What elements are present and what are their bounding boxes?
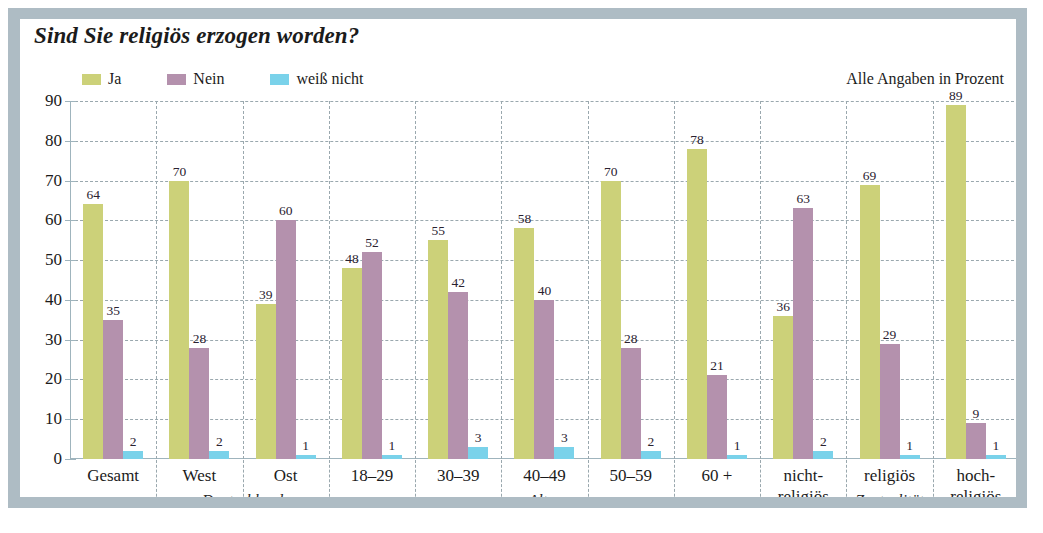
bar-ja[interactable]: 70: [601, 101, 621, 459]
bar-rect: [860, 185, 880, 459]
bar-rect: [900, 455, 920, 459]
y-axis-tick-label: 80: [26, 131, 62, 151]
legend-entry-nein[interactable]: Nein: [167, 70, 224, 88]
y-axis-tick-label: 70: [26, 171, 62, 191]
bar-ja[interactable]: 58: [514, 101, 534, 459]
bar-rect: [448, 292, 468, 459]
bar-weiß-nicht[interactable]: 3: [554, 101, 574, 459]
x-axis-category-label[interactable]: West: [156, 466, 242, 487]
bar-group-bars: 64352: [70, 101, 156, 459]
x-axis-category-label[interactable]: Ost: [243, 466, 329, 487]
bar-value-label: 35: [106, 303, 120, 319]
bar-group: 8991: [933, 101, 1016, 459]
bar-value-label: 21: [710, 358, 724, 374]
bar-nein[interactable]: 28: [189, 101, 209, 459]
bar-group: 48521: [329, 101, 415, 459]
x-axis-category-label[interactable]: 50–59: [588, 466, 674, 487]
bar-nein[interactable]: 29: [880, 101, 900, 459]
x-axis-category-label[interactable]: 40–49: [501, 466, 587, 487]
bar-ja[interactable]: 55: [428, 101, 448, 459]
bar-ja[interactable]: 36: [773, 101, 793, 459]
bar-group-bars: 36632: [760, 101, 846, 459]
bar-ja[interactable]: 48: [342, 101, 362, 459]
x-axis-category-label[interactable]: 18–29: [329, 466, 415, 487]
bar-weiß-nicht[interactable]: 1: [986, 101, 1006, 459]
bar-ja[interactable]: 39: [256, 101, 276, 459]
bar-value-label: 28: [624, 331, 638, 347]
bar-value-label: 89: [949, 88, 963, 104]
bar-value-label: 1: [906, 438, 913, 454]
x-axis-tick-label: 30–39: [437, 466, 480, 485]
legend-entry-weiß-nicht[interactable]: weiß nicht: [270, 70, 363, 88]
bar-ja[interactable]: 70: [169, 101, 189, 459]
bar-weiß-nicht[interactable]: 3: [468, 101, 488, 459]
bar-ja[interactable]: 64: [83, 101, 103, 459]
bar-rect: [362, 252, 382, 459]
bar-weiß-nicht[interactable]: 2: [813, 101, 833, 459]
x-axis-tick-label: 50–59: [610, 466, 653, 485]
x-axis-tick-label: Gesamt: [87, 466, 139, 485]
bar-value-label: 52: [365, 235, 379, 251]
bar-nein[interactable]: 40: [534, 101, 554, 459]
bar-value-label: 64: [86, 187, 100, 203]
bar-nein[interactable]: 42: [448, 101, 468, 459]
bar-group-bars: 8991: [933, 101, 1016, 459]
bar-group: 55423: [415, 101, 501, 459]
bar-group-bars: 69291: [846, 101, 932, 459]
bar-nein[interactable]: 21: [707, 101, 727, 459]
bar-weiß-nicht[interactable]: 1: [727, 101, 747, 459]
x-axis-category-label[interactable]: 60 +: [674, 466, 760, 487]
bar-value-label: 28: [193, 331, 207, 347]
bar-nein[interactable]: 9: [966, 101, 986, 459]
bar-value-label: 63: [797, 191, 811, 207]
bar-value-label: 9: [972, 406, 979, 422]
bar-rect: [946, 105, 966, 459]
chart-title: Sind Sie religiös erzogen worden?: [34, 23, 359, 49]
bar-group-bars: 55423: [415, 101, 501, 459]
bar-nein[interactable]: 60: [276, 101, 296, 459]
bar-value-label: 1: [734, 438, 741, 454]
bar-rect: [727, 455, 747, 459]
x-axis-category-label[interactable]: religiös: [846, 466, 932, 487]
bar-ja[interactable]: 69: [860, 101, 880, 459]
x-axis-group-label: Deutschland: [156, 492, 329, 497]
bar-rect: [966, 423, 986, 459]
x-axis-tick-label: 18–29: [351, 466, 394, 485]
legend-swatch-icon: [82, 74, 101, 85]
bar-nein[interactable]: 35: [103, 101, 123, 459]
bar-group-bars: 70282: [588, 101, 674, 459]
y-axis-tick-label: 50: [26, 250, 62, 270]
bar-ja[interactable]: 89: [946, 101, 966, 459]
bar-nein[interactable]: 52: [362, 101, 382, 459]
bar-nein[interactable]: 63: [793, 101, 813, 459]
chart-legend: JaNeinweiß nicht: [82, 70, 364, 88]
bar-rect: [83, 204, 103, 459]
bar-weiß-nicht[interactable]: 1: [296, 101, 316, 459]
bar-weiß-nicht[interactable]: 2: [209, 101, 229, 459]
y-axis-tick-label: 10: [26, 409, 62, 429]
bar-group-bars: 48521: [329, 101, 415, 459]
bar-group: 36632: [760, 101, 846, 459]
x-axis-category-label[interactable]: 30–39: [415, 466, 501, 487]
bar-nein[interactable]: 28: [621, 101, 641, 459]
bar-rect: [641, 451, 661, 459]
units-note: Alle Angaben in Prozent: [846, 70, 1004, 88]
bar-value-label: 78: [690, 132, 704, 148]
bar-group: 70282: [588, 101, 674, 459]
bar-weiß-nicht[interactable]: 1: [900, 101, 920, 459]
bar-group: 70282: [156, 101, 242, 459]
bar-weiß-nicht[interactable]: 2: [641, 101, 661, 459]
bar-weiß-nicht[interactable]: 1: [382, 101, 402, 459]
bar-value-label: 69: [863, 168, 877, 184]
bar-value-label: 40: [538, 283, 552, 299]
y-axis-tick-label: 60: [26, 210, 62, 230]
bar-value-label: 2: [647, 434, 654, 450]
bar-ja[interactable]: 78: [687, 101, 707, 459]
legend-entry-ja[interactable]: Ja: [82, 70, 121, 88]
x-axis-category-label[interactable]: Gesamt: [70, 466, 156, 487]
x-axis-tick-label: Ost: [274, 466, 298, 485]
bar-value-label: 1: [389, 438, 396, 454]
bar-rect: [534, 300, 554, 459]
bar-weiß-nicht[interactable]: 2: [123, 101, 143, 459]
y-axis-tick-label: 40: [26, 290, 62, 310]
